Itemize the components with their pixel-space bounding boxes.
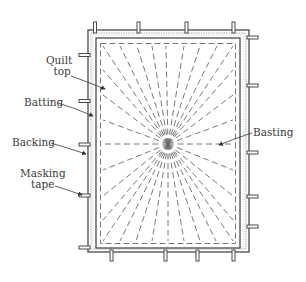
label-masking-tape-line2: tape	[20, 179, 66, 190]
label-basting: Basting	[253, 127, 293, 138]
label-masking-tape: Masking tape	[20, 168, 66, 190]
label-batting: Batting	[24, 97, 63, 108]
label-backing: Backing	[12, 137, 55, 148]
label-quilt-top: Quilt top	[46, 55, 72, 77]
label-quilt-top-line2: top	[52, 66, 72, 77]
